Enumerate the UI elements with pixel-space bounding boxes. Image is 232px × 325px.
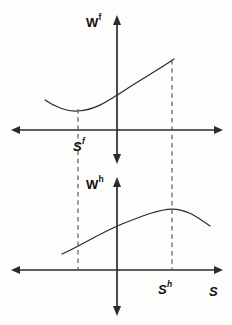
- bottom-axis-down-arrowhead-icon: [113, 306, 121, 316]
- top-axis-right-arrowhead-icon: [214, 126, 223, 134]
- bottom-axis-left-arrowhead-icon: [11, 266, 20, 274]
- top-axis-left-arrowhead-icon: [11, 126, 20, 134]
- bottom-panel-group: [11, 177, 223, 316]
- horizontal-axis-label: S: [209, 283, 218, 299]
- top-vertical-axis: [113, 15, 121, 164]
- bottom-threshold-label: Sh: [158, 281, 172, 297]
- top-panel-group: [11, 15, 223, 164]
- bottom-axis-up-arrowhead-icon: [113, 177, 121, 187]
- figure-canvas: Wf Sf Wh Sh S: [0, 0, 232, 325]
- top-axis-up-arrowhead-icon: [113, 15, 121, 25]
- bottom-vertical-axis-label: Wh: [86, 176, 103, 192]
- top-vertical-axis-label: Wf: [86, 14, 101, 30]
- wh-curve: [62, 209, 210, 254]
- bottom-vertical-axis: [113, 177, 121, 316]
- bottom-axis-right-arrowhead-icon: [214, 266, 223, 274]
- wf-curve: [45, 59, 174, 111]
- two-panel-diagram-svg: [0, 0, 232, 325]
- top-axis-down-arrowhead-icon: [113, 154, 121, 164]
- top-threshold-label: Sf: [73, 138, 85, 154]
